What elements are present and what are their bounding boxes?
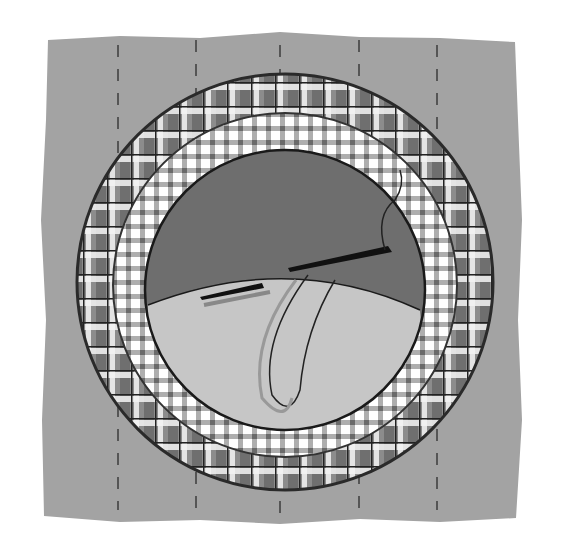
illustration (0, 0, 565, 551)
